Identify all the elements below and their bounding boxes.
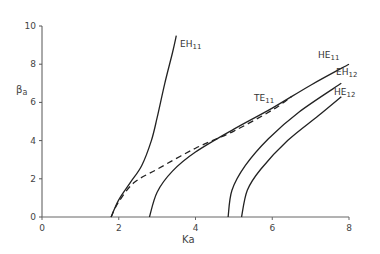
y-tick-label: 0	[30, 212, 36, 222]
x-tick-label: 4	[193, 223, 199, 233]
y-tick-label: 10	[25, 21, 37, 31]
curve-eh11	[111, 36, 176, 217]
y-tick-label: 4	[30, 136, 36, 146]
x-tick-label: 6	[269, 223, 275, 233]
label-he12: HE12	[334, 87, 355, 99]
curve-te11	[111, 97, 291, 217]
y-tick-label: 8	[30, 59, 36, 69]
y-axis-label: βa	[16, 84, 27, 97]
x-axis-label: Ka	[182, 234, 195, 245]
x-tick-label: 2	[116, 223, 122, 233]
y-tick-label: 2	[30, 174, 36, 184]
label-eh11: EH11	[180, 39, 201, 51]
dispersion-chart: 024680246810 EH11TE11HE11EH12HE12 βa Ka	[0, 0, 380, 254]
y-tick-label: 6	[30, 97, 36, 107]
label-eh12: EH12	[336, 67, 357, 79]
axes	[42, 26, 349, 217]
x-tick-label: 8	[346, 223, 352, 233]
x-tick-label: 0	[39, 223, 45, 233]
label-he11: HE11	[318, 50, 339, 62]
curve-he11	[149, 64, 349, 217]
curves	[111, 36, 349, 217]
label-te11: TE11	[253, 93, 274, 105]
curve-labels: EH11TE11HE11EH12HE12	[180, 39, 357, 105]
curve-he12	[242, 97, 342, 217]
